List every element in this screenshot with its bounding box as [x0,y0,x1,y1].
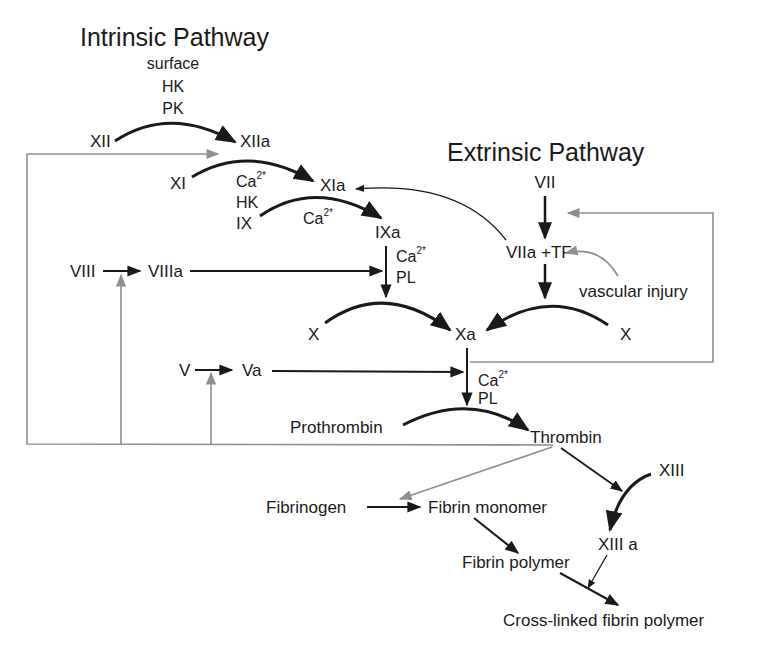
node-viii: VIII [70,262,96,281]
arrow-prothrombin-to-thrombin [403,409,528,430]
cofactor-ca-x-step: Ca2* [396,245,426,265]
node-xii: XII [90,132,111,151]
cofactor-surface: surface [147,55,200,72]
cofactor-hk-xi-step: HK [236,194,259,211]
node-xia: XIa [320,176,346,195]
node-viiia: VIIIa [148,262,184,281]
node-va: Va [242,361,262,380]
node-v: V [179,361,191,380]
node-fibrin-monomer: Fibrin monomer [428,498,547,517]
node-thrombin: Thrombin [530,428,602,447]
arrow-vascular-injury [566,251,618,276]
node-fibrin-polymer: Fibrin polymer [462,553,570,572]
arrow-x-to-xa-right [487,306,608,330]
arrow-va-to-complex [272,371,463,372]
arrow-monomer-to-polymer [474,518,518,553]
arrow-xii-to-xiia [115,123,235,142]
node-xiii: XIII [659,461,685,480]
node-fibrinogen: Fibrinogen [266,498,346,517]
arrow-xiii-to-xiiia [610,474,651,530]
cofactor-pl-prothrombin-step: PL [478,390,498,407]
cofactor-pk: PK [162,100,184,117]
arrow-x-to-xa-left [325,303,450,330]
arrow-xiiia-to-crosslink [588,555,607,588]
node-vascular-injury: vascular injury [579,282,688,301]
node-x-right: X [620,325,631,344]
node-xa: Xa [455,325,476,344]
cofactor-ca-ix-step: Ca2* [303,207,333,227]
node-cross-linked-fibrin-polymer: Cross-linked fibrin polymer [503,611,705,630]
arrow-polymer-to-crosslinked [560,573,618,605]
node-x-left: X [308,325,319,344]
node-prothrombin: Prothrombin [290,418,383,437]
cofactor-pl-x-step: PL [396,269,416,286]
intrinsic-pathway-title: Intrinsic Pathway [80,23,269,51]
node-ixa: IXa [375,223,401,242]
arrow-thrombin-to-xiii-step [561,448,622,491]
node-viia-tf: VIIa +TF [506,243,572,262]
extrinsic-pathway-title: Extrinsic Pathway [447,138,645,166]
cofactor-hk: HK [162,78,185,95]
node-xiia: XIIa [240,132,271,151]
node-vii: VII [535,173,556,192]
node-ix: IX [236,214,252,233]
cofactor-ca-xi-step: Ca2* [236,170,266,190]
node-xi: XI [170,174,186,193]
coagulation-cascade-diagram: Intrinsic Pathway Extrinsic Pathway surf… [0,0,779,655]
arrow-thrombin-to-fibrinogen-step [400,447,552,499]
cofactor-ca-prothrombin-step: Ca2* [478,369,508,389]
feedback-thrombin-to-xi [27,154,553,445]
node-xiiia: XIII a [598,535,638,554]
